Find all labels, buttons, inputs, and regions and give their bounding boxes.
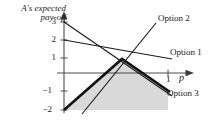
- y-tick-label-minus-2: −2: [38, 104, 52, 114]
- y-tick-label-1: 1: [42, 52, 56, 62]
- y-tick-label-2: 2: [42, 34, 56, 44]
- series-label-option-1: Option 1: [170, 47, 202, 57]
- y-axis-title: A's expected pay-off: [2, 4, 66, 23]
- series-label-option-3: Option 3: [167, 88, 199, 98]
- shaded-feasible-region: [64, 59, 168, 110]
- x-tick-label-1: 1: [166, 74, 171, 84]
- y-tick-label-3: 3: [42, 16, 56, 26]
- series-label-option-2: Option 2: [158, 13, 190, 23]
- x-axis-arrowhead: [186, 70, 195, 76]
- chart-figure: A's expected pay-off 3 2 1 −1 −2 1 p Opt…: [0, 0, 210, 127]
- y-tick-label-minus-1: −1: [38, 85, 52, 95]
- x-axis-title: p: [179, 72, 184, 83]
- series-line-option-1: [64, 40, 172, 59]
